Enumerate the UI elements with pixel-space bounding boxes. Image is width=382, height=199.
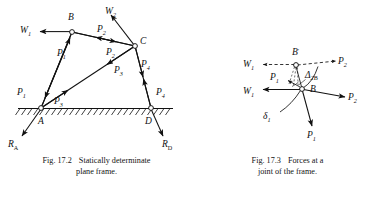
node-label-B-joint: B — [310, 84, 316, 94]
load-label-W1: W1 — [20, 25, 31, 37]
load-label-W2: W2 — [105, 6, 116, 18]
joint-B-prime-node[interactable] — [294, 63, 299, 68]
node-label-A: A — [37, 116, 44, 126]
force-label-P1-displaced: P1 — [269, 72, 279, 84]
member-CD — [135, 46, 151, 108]
deflection-delta1-leader — [280, 91, 301, 113]
figure-plate: B C A D W1 W2 RA RD P1 P1 P2 P2 P3 P3 P4… — [0, 0, 382, 199]
reaction-label-RA: RA — [7, 139, 19, 151]
caption-number-17-2: Fig. 17.2 — [43, 156, 72, 165]
fig-17-2-graphic: B C A D W1 W2 RA RD P1 P1 P2 P2 P3 P3 P4… — [7, 6, 173, 151]
force-label-P1: P1 — [306, 130, 316, 142]
joint-D[interactable] — [149, 106, 154, 111]
reaction-label-RD: RD — [161, 139, 173, 151]
force-label-P2-displaced: P2 — [337, 56, 347, 68]
force-label-P2-at-B: P2 — [96, 24, 106, 36]
force-label-P2: P2 — [347, 92, 357, 104]
fig-17-3-graphic: B′ B W1 P2 W1 P2 P1 P1 Δ2B δ1 — [243, 47, 357, 142]
force-label-W1-displaced: W1 — [243, 59, 254, 71]
force-label-W1: W1 — [243, 86, 254, 98]
caption-fig-17-2: Fig. 17.2Statically determinate plane fr… — [14, 156, 179, 177]
force-P2-displaced-arrow — [298, 61, 337, 65]
caption-fig-17-3: Fig. 17.3Forces at a joint of the frame. — [205, 156, 370, 177]
annotation-label-delta1: δ1 — [263, 111, 271, 123]
force-label-P1-at-A: P1 — [16, 87, 26, 99]
force-label-P4-at-D: P4 — [155, 87, 165, 99]
joint-B-node[interactable] — [300, 87, 305, 92]
load-W2-arrow — [111, 15, 134, 45]
joint-C[interactable] — [133, 44, 138, 49]
joint-A[interactable] — [39, 106, 44, 111]
force-label-P3-at-A: P3 — [53, 96, 63, 108]
node-label-B: B — [68, 12, 74, 22]
node-label-C: C — [140, 36, 147, 46]
caption-line1-17-3: Forces at a — [288, 156, 323, 165]
force-label-P3-at-C: P3 — [113, 65, 123, 77]
caption-number-17-3: Fig. 17.3 — [252, 156, 281, 165]
caption-line2-17-2: plane frame. — [14, 167, 179, 178]
force-label-P4-at-C: P4 — [140, 59, 150, 71]
caption-line1-17-2: Statically determinate — [79, 156, 151, 165]
node-label-D: D — [144, 116, 152, 126]
caption-line2-17-3: joint of the frame. — [205, 167, 370, 178]
joint-B[interactable] — [70, 30, 75, 35]
force-label-P2-at-C: P2 — [105, 47, 115, 59]
force-P1-arrow — [303, 91, 313, 126]
node-label-B-prime: B′ — [292, 47, 300, 57]
